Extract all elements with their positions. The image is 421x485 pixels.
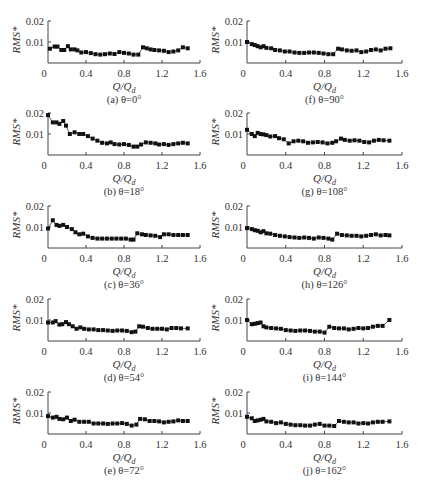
x-tick-label: 0 xyxy=(41,68,46,79)
x-tick-label: 0 xyxy=(240,160,245,171)
data-point-square xyxy=(303,329,307,333)
data-point-square xyxy=(105,141,109,145)
data-point-square xyxy=(359,234,363,238)
x-tick-label: 1.6 xyxy=(193,253,206,264)
data-point-square xyxy=(376,420,380,424)
data-point-square xyxy=(87,420,91,424)
data-point-square xyxy=(342,326,346,330)
x-tick-label: 1.6 xyxy=(395,439,408,450)
data-point-square xyxy=(100,237,104,241)
data-point-square xyxy=(318,422,322,426)
data-point-square xyxy=(132,53,136,57)
x-tick-label: 1.2 xyxy=(357,253,370,264)
data-point-square xyxy=(293,329,297,333)
data-point-square xyxy=(289,423,293,427)
data-point-square xyxy=(340,233,344,237)
x-axis-label: Q/Qd xyxy=(313,451,337,466)
data-point-square xyxy=(340,47,344,51)
data-point-square xyxy=(103,52,107,56)
data-point-square xyxy=(69,419,73,423)
data-point-square xyxy=(135,145,139,149)
data-point-square xyxy=(143,417,147,421)
data-point-square xyxy=(117,50,121,54)
data-point-square xyxy=(96,422,100,426)
data-point-square xyxy=(245,318,249,322)
data-point-square xyxy=(357,139,361,143)
data-point-square xyxy=(171,142,175,146)
panel-caption: (d) θ=54° xyxy=(104,372,145,384)
data-point-square xyxy=(57,224,61,228)
data-point-square xyxy=(297,51,301,55)
x-tick-label: 0.8 xyxy=(318,68,331,79)
y-tick-label: 0.02 xyxy=(26,387,44,398)
data-point-square xyxy=(269,420,273,424)
x-tick-label: 1.2 xyxy=(155,346,168,357)
data-point-square xyxy=(331,52,335,56)
x-tick-label: 0 xyxy=(41,346,46,357)
data-point-square xyxy=(111,422,115,426)
data-point-square xyxy=(335,232,339,236)
data-point-square xyxy=(81,232,85,236)
data-point-square xyxy=(149,141,153,145)
y-axis-label: RMS* xyxy=(10,304,22,332)
data-point-square xyxy=(100,141,104,145)
x-tick-label: 1.6 xyxy=(193,160,206,171)
data-point-square xyxy=(65,416,69,420)
data-point-square xyxy=(323,331,327,335)
data-point-square xyxy=(82,327,86,331)
data-point-square xyxy=(125,329,129,333)
data-point-square xyxy=(157,143,161,147)
data-point-square xyxy=(51,416,55,420)
data-point-square xyxy=(148,419,152,423)
data-point-square xyxy=(306,141,310,145)
x-tick-label: 0 xyxy=(240,439,245,450)
data-point-square xyxy=(313,423,317,427)
data-point-square xyxy=(152,48,156,52)
data-point-square xyxy=(67,322,71,326)
data-point-square xyxy=(343,138,347,142)
x-tick-label: 1.2 xyxy=(357,439,370,450)
panel-i: 0.020.0100.40.81.21.6RMS*Q/Qd(i) θ=144° xyxy=(209,294,409,385)
data-point-square xyxy=(297,236,301,240)
x-tick-label: 1.6 xyxy=(395,160,408,171)
data-point-square xyxy=(186,326,190,330)
y-tick-label: 0.02 xyxy=(26,108,44,119)
data-point-square xyxy=(153,141,157,145)
x-axis-label: Q/Qd xyxy=(313,80,337,95)
x-tick-label: 0.4 xyxy=(79,253,93,264)
data-point-square xyxy=(91,236,95,240)
data-point-square xyxy=(174,326,178,330)
data-point-square xyxy=(135,231,139,235)
data-point-square xyxy=(269,46,273,50)
data-point-square xyxy=(186,46,190,50)
data-point-square xyxy=(364,234,368,238)
data-point-square xyxy=(130,330,134,334)
data-point-square xyxy=(350,49,354,53)
data-point-square xyxy=(127,143,131,147)
data-point-square xyxy=(269,326,273,330)
y-tick-label: 0.02 xyxy=(225,294,243,305)
data-point-square xyxy=(293,423,297,427)
data-point-square xyxy=(345,233,349,237)
panel-caption: (i) θ=144° xyxy=(303,372,346,384)
x-tick-label: 0.4 xyxy=(79,160,93,171)
data-point-square xyxy=(352,420,356,424)
data-point-square xyxy=(92,327,96,331)
data-point-square xyxy=(181,419,185,423)
panel-caption: (a) θ=0° xyxy=(107,94,142,106)
data-point-square xyxy=(337,419,341,423)
data-point-square xyxy=(51,218,55,222)
data-point-square xyxy=(376,324,380,328)
data-point-square xyxy=(355,234,359,238)
x-tick-label: 0.8 xyxy=(318,253,331,264)
data-point-square xyxy=(317,236,321,240)
x-axis-label: Q/Qd xyxy=(113,265,137,280)
data-point-square xyxy=(347,327,351,331)
x-tick-label: 0.4 xyxy=(279,253,293,264)
panel-c: 0.020.0100.40.81.21.6RMS*Q/Qd(c) θ=36° xyxy=(10,201,207,292)
y-axis-label: RMS* xyxy=(209,304,221,332)
y-tick-label: 0.02 xyxy=(26,294,44,305)
data-point-square xyxy=(293,236,297,240)
data-point-square xyxy=(345,48,349,52)
data-point-square xyxy=(115,422,119,426)
